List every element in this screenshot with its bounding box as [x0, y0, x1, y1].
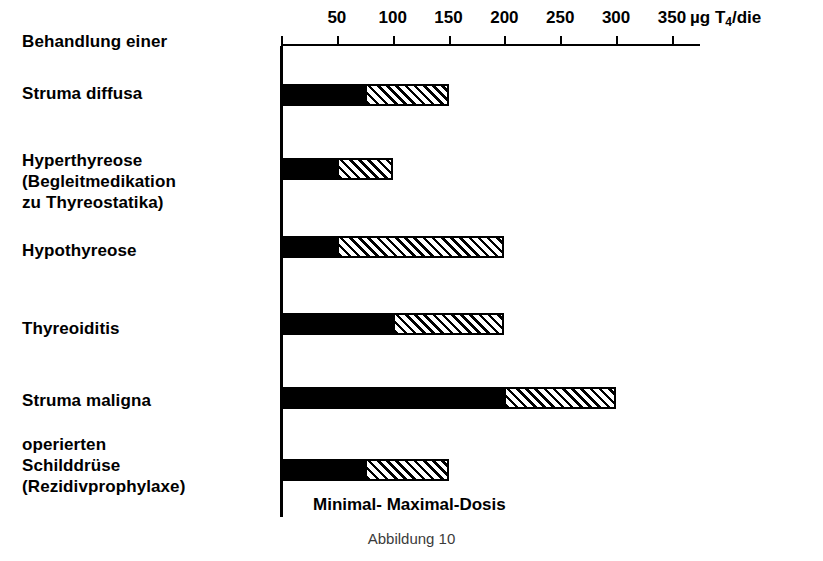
- x-axis-tick-150: [449, 36, 451, 45]
- x-axis-tick-label-250: 250: [532, 8, 588, 28]
- x-axis-tick-200: [504, 36, 506, 45]
- x-axis-tick-350: [672, 36, 674, 45]
- chart-intro-label: Behandlung einer: [22, 31, 167, 52]
- bar-segment-minimal-dose: [281, 158, 337, 180]
- bar-segment-maximal-dose: [393, 313, 505, 335]
- bar-segment-maximal-dose: [365, 459, 449, 481]
- x-axis-unit-label: µg T4/die: [690, 8, 761, 28]
- bar-segment-maximal-dose: [365, 84, 449, 106]
- bar-segment-maximal-dose: [504, 387, 616, 409]
- x-axis-unit-suffix: /die: [732, 8, 761, 27]
- bar-segment-minimal-dose: [281, 459, 365, 481]
- y-axis-line: [280, 46, 283, 517]
- x-axis-tick-label-50: 50: [309, 8, 365, 28]
- bar-segment-maximal-dose: [337, 236, 505, 258]
- bar-row: [281, 459, 449, 481]
- category-label-hyperthyreose: Hyperthyreose (Begleitmedikation zu Thyr…: [22, 150, 176, 213]
- x-axis-tick-label-300: 300: [588, 8, 644, 28]
- x-axis-tick-50: [337, 36, 339, 45]
- chart-legend-label: Minimal- Maximal-Dosis: [313, 495, 506, 515]
- bar-segment-maximal-dose: [337, 158, 393, 180]
- category-label-operierte-schilddruese: operierten Schilddrüse (Rezidivprophylax…: [22, 434, 185, 497]
- bar-segment-minimal-dose: [281, 313, 393, 335]
- x-axis-tick-300: [616, 36, 618, 45]
- x-axis-tick-250: [560, 36, 562, 45]
- x-axis-tick-label-200: 200: [476, 8, 532, 28]
- x-axis-unit-prefix: µg T: [690, 8, 725, 27]
- x-axis-tick-100: [393, 36, 395, 45]
- x-axis-tick-label-100: 100: [365, 8, 421, 28]
- bar-row: [281, 84, 449, 106]
- bar-row: [281, 158, 393, 180]
- bar-segment-minimal-dose: [281, 387, 504, 409]
- x-axis-tick-label-150: 150: [421, 8, 477, 28]
- category-label-thyreoiditis: Thyreoiditis: [22, 318, 120, 339]
- category-label-struma-diffusa: Struma diffusa: [22, 83, 142, 104]
- category-label-struma-maligna: Struma maligna: [22, 390, 151, 411]
- figure-caption: Abbildung 10: [0, 530, 823, 547]
- bar-row: [281, 236, 504, 258]
- x-axis-line: [281, 44, 700, 46]
- bar-row: [281, 387, 616, 409]
- figure-container: Behandlung einer Struma diffusa Hyperthy…: [0, 0, 823, 561]
- x-axis-tick-0: [281, 36, 283, 45]
- category-label-hypothyreose: Hypothyreose: [22, 240, 137, 261]
- bar-segment-minimal-dose: [281, 236, 337, 258]
- bar-segment-minimal-dose: [281, 84, 365, 106]
- x-axis-unit-subscript: 4: [725, 15, 732, 29]
- bar-row: [281, 313, 504, 335]
